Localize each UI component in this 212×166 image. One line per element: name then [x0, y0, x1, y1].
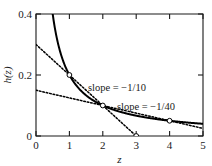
- x-axis-ticks: [36, 14, 203, 136]
- x-tick-label-5: 5: [200, 139, 206, 151]
- axes-frame: [36, 14, 203, 136]
- data-layer: [36, 0, 203, 138]
- x-tick-label-1: 1: [67, 139, 73, 151]
- y-tick-labels: 0 0.2 0.4: [18, 8, 32, 142]
- x-tick-labels: 0 1 2 3 4 5: [33, 139, 206, 151]
- y-tick-label-2: 0.4: [18, 8, 32, 20]
- annotation-slope-1-over-10: slope = −1/10: [88, 82, 146, 93]
- chart-figure: 0 1 2 3 4 5 0 0.2 0.4 z h(z): [0, 0, 212, 166]
- data-point-marker: [134, 134, 139, 139]
- annotation-slope-1-over-40: slope = −1/40: [117, 101, 175, 112]
- plot-border: [36, 14, 203, 136]
- x-tick-label-4: 4: [167, 139, 173, 151]
- y-tick-label-1: 0.2: [18, 69, 32, 81]
- y-tick-label-0: 0: [27, 130, 33, 142]
- data-point-marker: [67, 73, 72, 78]
- y-axis-ticks: [36, 14, 203, 136]
- data-point-marker: [100, 103, 105, 108]
- x-tick-label-0: 0: [33, 139, 39, 151]
- data-point-marker: [167, 118, 172, 123]
- x-tick-label-3: 3: [133, 139, 139, 151]
- plot-canvas: 0 1 2 3 4 5 0 0.2 0.4 z h(z): [0, 0, 212, 166]
- x-axis-title: z: [116, 153, 122, 165]
- x-tick-label-2: 2: [100, 139, 106, 151]
- y-axis-title: h(z): [1, 66, 14, 83]
